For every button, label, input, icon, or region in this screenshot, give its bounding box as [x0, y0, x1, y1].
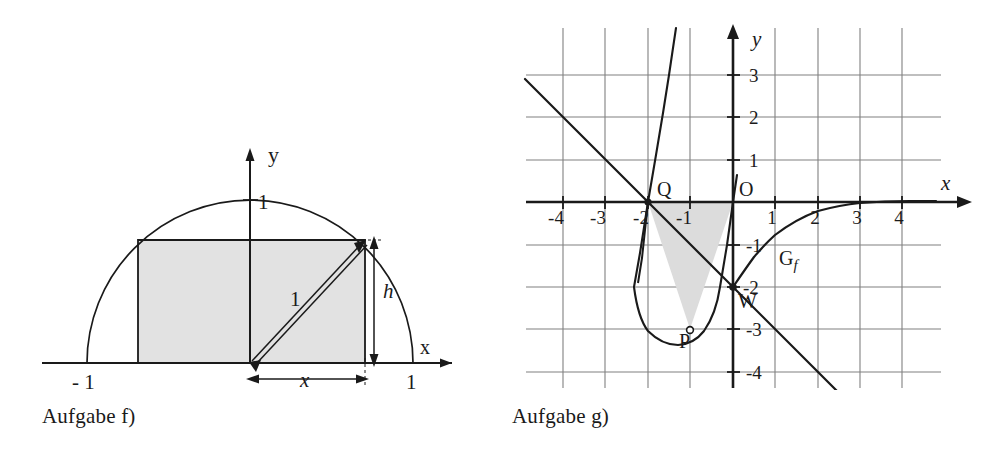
- parabola-vertex-region: [634, 287, 720, 345]
- x-tick-label--3: -3: [590, 207, 606, 228]
- x-tick-label-1: 1: [767, 207, 777, 228]
- point-label-O: O: [739, 178, 753, 200]
- x-tick-label-4: 4: [894, 207, 904, 228]
- figure-aufgabe-g: -4 -3 -2 -1 1 2 3 4 3 2 1 -1 -2 -3 -4 y …: [0, 0, 1001, 400]
- x-tick-label-2: 2: [810, 207, 820, 228]
- gf-curve: [733, 201, 936, 287]
- y-axis-arrowhead: [727, 24, 739, 39]
- y-tick-label--4: -4: [746, 362, 762, 383]
- axis-label-y: y: [750, 27, 762, 51]
- curve-label-gf: Gf: [779, 247, 799, 273]
- y-tick-label-2: 2: [749, 107, 759, 128]
- y-tick-label-1: 1: [749, 150, 759, 171]
- x-tick-label-3: 3: [852, 207, 862, 228]
- figure-page: y x 1 - 1 1 1 h x: [0, 0, 1001, 470]
- point-marker-W: [729, 283, 737, 291]
- curve-label-gf-subscript: f: [793, 257, 799, 273]
- point-label-Q: Q: [657, 178, 672, 200]
- caption-aufgabe-f: Aufgabe f): [42, 404, 136, 429]
- x-tick-label--4: -4: [548, 207, 564, 228]
- x-tick-label--2: -2: [633, 207, 649, 228]
- curve-label-gf-main: G: [779, 247, 793, 269]
- x-axis-arrowhead: [957, 196, 972, 208]
- point-marker-Q: [644, 198, 651, 205]
- x-tick-label--1: -1: [676, 207, 692, 228]
- point-label-W: W: [738, 290, 757, 312]
- point-label-P: P: [679, 330, 690, 352]
- y-tick-label--3: -3: [746, 319, 762, 340]
- axis-label-x: x: [940, 171, 951, 195]
- y-tick-label--1: -1: [746, 235, 762, 256]
- caption-aufgabe-g: Aufgabe g): [512, 404, 609, 429]
- y-tick-label-3: 3: [749, 65, 759, 86]
